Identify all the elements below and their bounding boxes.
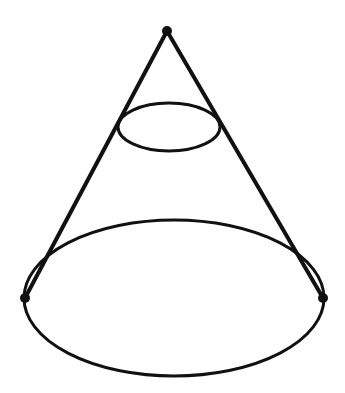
- cone-right-generatrix: [167, 31, 323, 298]
- cone-diagram: [0, 0, 345, 393]
- cross-section-ellipse: [118, 103, 220, 151]
- apex-point: [162, 26, 172, 36]
- base-left-point: [20, 293, 30, 303]
- cone-base-ellipse: [24, 220, 324, 376]
- base-right-point: [318, 293, 328, 303]
- cone-left-generatrix: [25, 31, 167, 298]
